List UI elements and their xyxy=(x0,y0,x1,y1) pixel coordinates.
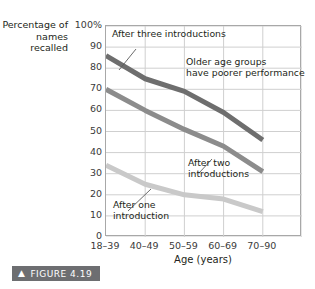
x-axis-tick-labels: 18–3940–4950–5960–6970–90 xyxy=(0,240,315,254)
figure-caption-badge: ▲ FIGURE 4.19 xyxy=(12,266,100,281)
chevron-up-icon: ▲ xyxy=(18,269,25,278)
annotation-after-one-introduction: After one introduction xyxy=(113,199,169,221)
x-axis-tick-label: 70–90 xyxy=(247,240,276,251)
y-axis-tick-label: 40 xyxy=(60,147,102,157)
y-axis-tick-label: 100% xyxy=(60,20,102,30)
y-axis-tick-label: 30 xyxy=(60,168,102,178)
y-axis-tick-label: 50 xyxy=(60,126,102,136)
x-axis-tick-label: 40–49 xyxy=(130,240,159,251)
x-axis-tick-label: 60–69 xyxy=(208,240,237,251)
y-axis-tick-label: 10 xyxy=(60,210,102,220)
x-axis-tick-label: 50–59 xyxy=(169,240,198,251)
x-axis-tick-label: 18–39 xyxy=(91,240,120,251)
figure-container: Percentage of names recalled 01020304050… xyxy=(0,0,315,289)
x-axis-title: Age (years) xyxy=(105,254,301,265)
y-axis-tick-label: 70 xyxy=(60,84,102,94)
figure-caption-label: FIGURE 4.19 xyxy=(30,269,92,279)
annotation-after-three-introductions: After three introductions xyxy=(112,28,226,39)
y-axis-tick-label: 20 xyxy=(60,189,102,199)
y-axis-title: Percentage of names recalled xyxy=(2,19,68,54)
annotation-after-two-introductions: After two introductions xyxy=(188,157,249,179)
y-axis-tick-label: 80 xyxy=(60,62,102,72)
y-axis-tick-label: 60 xyxy=(60,105,102,115)
annotation-older-age-groups: Older age groups have poorer performance xyxy=(186,56,305,78)
y-axis-tick-label: 90 xyxy=(60,41,102,51)
